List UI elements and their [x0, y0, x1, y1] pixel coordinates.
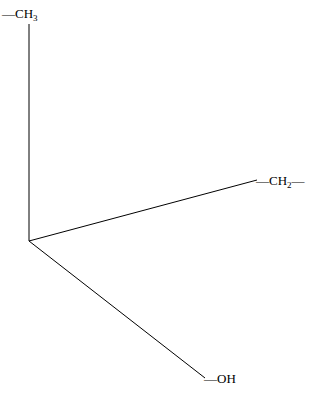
bond-to-hydroxyl [29, 241, 205, 378]
bond-lines [0, 0, 320, 402]
bond-to-methylene [29, 180, 257, 241]
bond-dash: — [292, 173, 305, 188]
methyl-text: CH [15, 6, 33, 21]
methyl-label: —CH3 [2, 7, 38, 20]
methyl-subscript: 3 [33, 13, 38, 23]
bond-dash: — [2, 6, 15, 21]
methylene-label: —CH2— [256, 174, 305, 187]
hydroxyl-label: —OH [204, 372, 236, 385]
bond-dash: — [256, 173, 269, 188]
methylene-text: CH [269, 173, 287, 188]
hydroxyl-text: OH [217, 371, 236, 386]
bond-dash: — [204, 371, 217, 386]
